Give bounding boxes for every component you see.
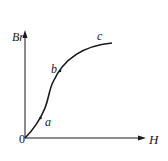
diagram-canvas: Br H 0 a b c	[0, 0, 168, 161]
point-c-label: c	[97, 30, 102, 42]
magnetization-curve	[25, 43, 112, 138]
point-b-label: b	[51, 63, 57, 75]
diagram-svg	[0, 0, 168, 161]
x-axis-arrow-icon	[138, 136, 146, 141]
y-axis-label: Br	[12, 31, 24, 43]
point-b-marker	[59, 70, 62, 73]
point-a-marker	[39, 117, 42, 120]
origin-label: 0	[19, 133, 25, 145]
point-a-label: a	[45, 116, 51, 128]
x-axis-label: H	[149, 133, 158, 146]
